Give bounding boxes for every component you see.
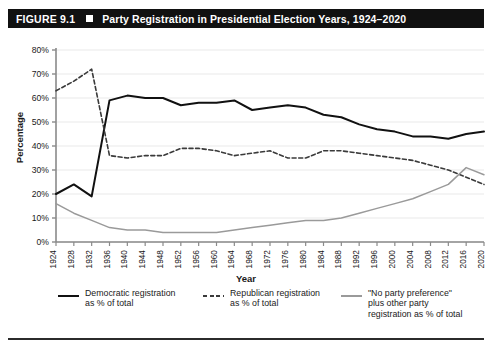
svg-text:2004: 2004 (405, 250, 415, 269)
chart-legend: Democratic registration as % of total Re… (0, 288, 492, 336)
legend-label-no-party-preference: "No party preference" plus other party r… (368, 288, 462, 319)
svg-text:80%: 80% (32, 45, 50, 55)
svg-text:60%: 60% (32, 93, 50, 103)
legend-item-republican: Republican registration as % of total (203, 288, 320, 309)
svg-text:70%: 70% (32, 69, 50, 79)
svg-text:1944: 1944 (137, 250, 147, 269)
legend-item-democratic: Democratic registration as % of total (58, 288, 175, 309)
svg-text:1924: 1924 (48, 250, 58, 269)
svg-text:1972: 1972 (262, 250, 272, 269)
legend-swatch-republican-icon (203, 291, 224, 301)
legend-item-no-party-preference: "No party preference" plus other party r… (341, 288, 462, 319)
title-bullet-square-icon (86, 15, 93, 22)
legend-swatch-democratic-icon (58, 291, 79, 301)
legend-swatch-no-party-preference-icon (341, 291, 362, 301)
svg-text:1976: 1976 (280, 250, 290, 269)
svg-text:1964: 1964 (226, 250, 236, 269)
svg-text:2008: 2008 (423, 250, 433, 269)
svg-text:1952: 1952 (173, 250, 183, 269)
svg-text:2016: 2016 (458, 250, 468, 269)
svg-text:50%: 50% (32, 117, 50, 127)
svg-text:20%: 20% (32, 189, 50, 199)
line-chart-svg: 0%10%20%30%40%50%60%70%80%19241928193219… (0, 34, 492, 286)
plot-area: Percentage Year 0%10%20%30%40%50%60%70%8… (0, 34, 492, 286)
svg-text:1988: 1988 (333, 250, 343, 269)
footer-rule (8, 338, 484, 340)
svg-text:1948: 1948 (155, 250, 165, 269)
figure-title-bar: FIGURE 9.1 Party Registration in Preside… (8, 9, 484, 28)
figure-title-label: Party Registration in Presidential Elect… (102, 13, 406, 25)
figure-number-label: FIGURE 9.1 (16, 13, 75, 25)
svg-text:10%: 10% (32, 213, 50, 223)
legend-label-democratic: Democratic registration as % of total (85, 288, 175, 309)
svg-text:30%: 30% (32, 165, 50, 175)
svg-text:1984: 1984 (316, 250, 326, 269)
svg-text:2000: 2000 (387, 250, 397, 269)
svg-text:1932: 1932 (84, 250, 94, 269)
svg-text:40%: 40% (32, 141, 50, 151)
svg-text:1968: 1968 (244, 250, 254, 269)
legend-label-republican: Republican registration as % of total (230, 288, 320, 309)
svg-text:1996: 1996 (369, 250, 379, 269)
svg-text:1936: 1936 (102, 250, 112, 269)
figure-container: FIGURE 9.1 Party Registration in Preside… (0, 0, 492, 348)
svg-text:1960: 1960 (209, 250, 219, 269)
svg-text:0%: 0% (37, 237, 50, 247)
svg-text:2020: 2020 (476, 250, 486, 269)
svg-text:1980: 1980 (298, 250, 308, 269)
svg-text:1928: 1928 (66, 250, 76, 269)
svg-text:1956: 1956 (191, 250, 201, 269)
svg-text:1992: 1992 (351, 250, 361, 269)
svg-text:1940: 1940 (119, 250, 129, 269)
svg-text:2012: 2012 (440, 250, 450, 269)
